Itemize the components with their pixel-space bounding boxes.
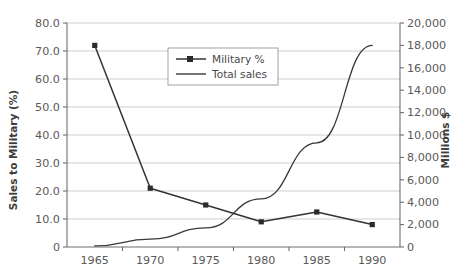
x-axis-ticks <box>123 247 345 251</box>
right-axis-title: Millions $ <box>439 112 451 169</box>
legend: Military % Total sales <box>168 48 278 85</box>
data-point-marker <box>92 43 97 48</box>
right-tick-label: 6,000 <box>407 174 439 187</box>
left-tick-label: 40.0 <box>35 129 60 142</box>
right-tick-label: 16,000 <box>407 62 446 75</box>
right-tick-label: 2,000 <box>407 218 439 231</box>
data-point-marker <box>203 202 208 207</box>
right-tick-label: 4,000 <box>407 196 439 209</box>
left-tick-label: 10.0 <box>35 213 60 226</box>
data-point-marker <box>259 219 264 224</box>
left-axis-ticks <box>63 23 67 247</box>
data-point-marker <box>314 209 319 214</box>
right-tick-label: 0 <box>407 241 414 254</box>
x-axis-tick-labels: 196519701975198019851990 <box>81 254 387 267</box>
left-tick-label: 0 <box>53 241 60 254</box>
left-tick-label: 60.0 <box>35 73 60 86</box>
legend-label-military-percent: Military % <box>212 53 265 65</box>
chart-container: 010.020.030.040.050.060.070.080.0 02,000… <box>0 0 461 280</box>
right-tick-label: 18,000 <box>407 39 446 52</box>
left-tick-label: 50.0 <box>35 101 60 114</box>
x-tick-label: 1975 <box>192 254 220 267</box>
x-tick-label: 1980 <box>247 254 275 267</box>
x-tick-label: 1990 <box>358 254 386 267</box>
right-tick-label: 8,000 <box>407 151 439 164</box>
legend-label-total-sales: Total sales <box>211 68 267 80</box>
right-tick-label: 14,000 <box>407 84 446 97</box>
x-tick-label: 1965 <box>81 254 109 267</box>
data-point-marker <box>148 186 153 191</box>
left-axis-title: Sales to Military (%) <box>7 90 19 210</box>
x-tick-label: 1970 <box>136 254 164 267</box>
legend-swatch-marker-military <box>187 56 193 62</box>
right-axis-ticks <box>400 23 404 247</box>
left-tick-label: 70.0 <box>35 45 60 58</box>
left-tick-label: 80.0 <box>35 17 60 30</box>
left-axis-tick-labels: 010.020.030.040.050.060.070.080.0 <box>35 17 60 254</box>
left-tick-label: 20.0 <box>35 185 60 198</box>
x-tick-label: 1985 <box>303 254 331 267</box>
left-tick-label: 30.0 <box>35 157 60 170</box>
line-chart: 010.020.030.040.050.060.070.080.0 02,000… <box>0 0 461 280</box>
right-tick-label: 20,000 <box>407 17 446 30</box>
data-point-marker <box>370 222 375 227</box>
